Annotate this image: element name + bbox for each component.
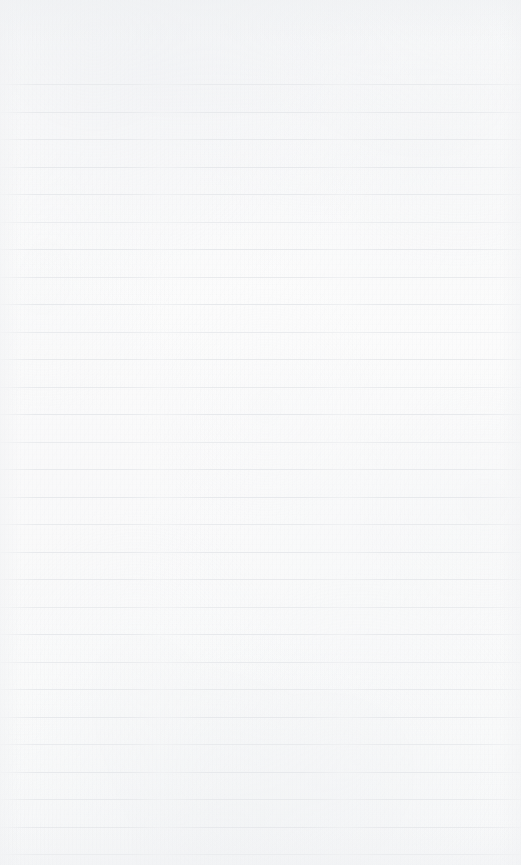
ruled-line bbox=[0, 717, 521, 718]
ruled-line bbox=[0, 744, 521, 745]
ruled-line bbox=[0, 799, 521, 800]
ruled-lines-group bbox=[0, 0, 521, 865]
ruled-line bbox=[0, 827, 521, 828]
header-margin-area bbox=[0, 0, 521, 84]
ruled-line bbox=[0, 167, 521, 168]
ruled-paper-page bbox=[0, 0, 521, 865]
ruled-line bbox=[0, 414, 521, 415]
ruled-line bbox=[0, 854, 521, 855]
ruled-line bbox=[0, 689, 521, 690]
ruled-line bbox=[0, 84, 521, 85]
ruled-line bbox=[0, 139, 521, 140]
ruled-line bbox=[0, 304, 521, 305]
ruled-line bbox=[0, 524, 521, 525]
ruled-line bbox=[0, 222, 521, 223]
ruled-line bbox=[0, 497, 521, 498]
ruled-line bbox=[0, 194, 521, 195]
ruled-line bbox=[0, 112, 521, 113]
ruled-line bbox=[0, 359, 521, 360]
ruled-line bbox=[0, 579, 521, 580]
ruled-line bbox=[0, 277, 521, 278]
ruled-line bbox=[0, 772, 521, 773]
ruled-line bbox=[0, 442, 521, 443]
ruled-line bbox=[0, 387, 521, 388]
ruled-line bbox=[0, 634, 521, 635]
ruled-line bbox=[0, 552, 521, 553]
ruled-line bbox=[0, 662, 521, 663]
ruled-line bbox=[0, 249, 521, 250]
ruled-line bbox=[0, 469, 521, 470]
ruled-line bbox=[0, 607, 521, 608]
ruled-line bbox=[0, 332, 521, 333]
